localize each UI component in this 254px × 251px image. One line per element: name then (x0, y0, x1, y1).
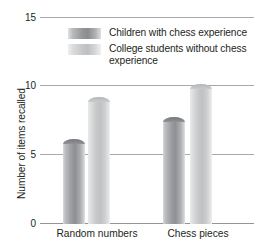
bar-chess-pieces-college (190, 84, 212, 224)
y-tick-label-0: 0 (30, 218, 36, 229)
legend-swatch-icon (68, 44, 101, 55)
bar-body (190, 89, 212, 224)
bar-random-numbers-children (63, 139, 85, 224)
y-tick-label-15: 15 (25, 12, 36, 23)
legend-label-college: College students without chess experienc… (109, 43, 254, 68)
y-axis-title: Number of items recalled (16, 69, 27, 219)
gridline-15: 15 (40, 17, 254, 18)
legend-swatch-icon (68, 28, 101, 39)
bar-body (88, 102, 110, 224)
bar-random-numbers-college (88, 97, 110, 224)
y-tick-label-10: 10 (25, 80, 36, 91)
legend-label-children: Children with chess experience (109, 27, 247, 40)
legend-item-children: Children with chess experience (68, 27, 254, 40)
gridline-10: 10 (40, 85, 254, 86)
y-tick-label-5: 5 (30, 149, 36, 160)
legend-item-college: College students without chess experienc… (68, 43, 254, 68)
bar-body (63, 144, 85, 224)
legend: Children with chess experience College s… (68, 27, 254, 71)
bar-chess-pieces-children (163, 117, 185, 224)
x-axis-label-random-numbers: Random numbers (57, 228, 138, 239)
x-axis-label-chess-pieces: Chess pieces (167, 228, 228, 239)
bar-body (163, 122, 185, 224)
bar-chart-figure: Number of items recalled 15 10 5 0 (0, 0, 254, 251)
